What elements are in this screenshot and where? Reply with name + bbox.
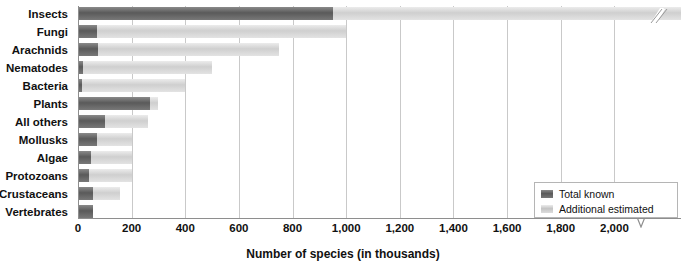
tick-label-1800: 1,800 — [546, 222, 575, 234]
bar-break-marker-icon — [649, 8, 671, 24]
value-axis-line — [78, 6, 79, 219]
tick-label-2000: 2,000 — [600, 222, 629, 234]
category-label-vertebrates: Vertebrates — [0, 207, 68, 218]
chart-legend: Total known Additional estimated — [534, 182, 678, 218]
bar-segment-additional-estimated — [78, 25, 346, 38]
bar-segment-total-known — [78, 169, 89, 182]
category-label-plants: Plants — [0, 99, 68, 110]
category-label-algae: Algae — [0, 153, 68, 164]
bar-segment-total-known — [78, 43, 98, 56]
tick-label-0: 0 — [75, 222, 81, 234]
legend-item-total-known: Total known — [541, 187, 671, 200]
category-label-bacteria: Bacteria — [0, 81, 68, 92]
tick-label-1000: 1,000 — [332, 222, 361, 234]
axis-title: Number of species (in thousands) — [0, 247, 686, 261]
bar-row — [78, 24, 681, 42]
category-label-crustaceans: Crustaceans — [0, 189, 68, 200]
legend-item-additional-estimated: Additional estimated — [541, 202, 671, 215]
legend-label-additional-estimated: Additional estimated — [559, 203, 654, 215]
category-label-mollusks: Mollusks — [0, 135, 68, 146]
bar-segment-total-known — [78, 25, 97, 38]
bar-row — [78, 114, 681, 132]
tick-label-1600: 1,600 — [493, 222, 522, 234]
bar-row — [78, 42, 681, 60]
bar-segment-total-known — [78, 7, 333, 20]
bar-row — [78, 132, 681, 150]
bar-row — [78, 6, 681, 24]
bar-segment-total-known — [78, 115, 105, 128]
bar-segment-total-known — [78, 187, 93, 200]
tick-label-600: 600 — [229, 222, 248, 234]
bar-segment-additional-estimated — [78, 61, 212, 74]
bar-segment-total-known — [78, 97, 150, 110]
bar-row — [78, 150, 681, 168]
bar-segment-total-known — [78, 151, 91, 164]
tick-label-400: 400 — [176, 222, 195, 234]
tick-label-200: 200 — [122, 222, 141, 234]
bar-segment-total-known — [78, 205, 93, 218]
species-bar-chart: InsectsFungiArachnidsNematodesBacteriaPl… — [0, 0, 686, 270]
legend-swatch-additional-estimated — [541, 205, 553, 213]
legend-swatch-total-known — [541, 190, 553, 198]
category-label-arachnids: Arachnids — [0, 45, 68, 56]
bar-row — [78, 96, 681, 114]
tick-label-1400: 1,400 — [439, 222, 468, 234]
category-label-fungi: Fungi — [0, 27, 68, 38]
category-label-protozoans: Protozoans — [0, 171, 68, 182]
value-axis-ticks: 02004006008001,0001,2001,4001,6001,8002,… — [0, 222, 686, 240]
bar-row — [78, 60, 681, 78]
bar-segment-additional-estimated — [78, 43, 279, 56]
tick-label-1200: 1,200 — [385, 222, 414, 234]
category-axis-labels: InsectsFungiArachnidsNematodesBacteriaPl… — [0, 6, 72, 218]
category-label-insects: Insects — [0, 9, 68, 20]
tick-label-800: 800 — [283, 222, 302, 234]
category-label-all-others: All others — [0, 117, 68, 128]
category-label-nematodes: Nematodes — [0, 63, 68, 74]
bar-segment-total-known — [78, 133, 97, 146]
category-axis-line — [78, 218, 681, 219]
legend-label-total-known: Total known — [559, 188, 614, 200]
bar-segment-additional-estimated — [78, 79, 185, 92]
bar-row — [78, 78, 681, 96]
